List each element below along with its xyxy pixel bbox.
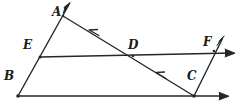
point-label-d: D: [128, 39, 138, 51]
vertex-dot-a: [62, 15, 65, 18]
arrowhead-ray-ba: [63, 3, 70, 13]
vertex-dot-e: [39, 56, 42, 59]
line-through-e: [40, 53, 232, 57]
arrowhead-ray-cf: [217, 36, 224, 46]
arrowhead-line-e: [225, 49, 235, 57]
vertex-dot-b: [16, 94, 20, 98]
diagram-canvas: A B C D E F: [0, 0, 242, 106]
arrowhead-line-b: [219, 92, 229, 100]
point-label-f: F: [203, 36, 212, 48]
point-label-e: E: [23, 39, 32, 51]
point-label-b: B: [4, 70, 14, 82]
geometry-figure: [0, 0, 242, 106]
vertex-dot-d: [132, 55, 135, 58]
point-label-c: C: [187, 70, 197, 82]
point-label-a: A: [52, 6, 61, 18]
vertex-dot-c: [192, 94, 196, 98]
tick-mark-dc-icon: [156, 72, 166, 79]
vertex-dot-f: [213, 50, 216, 53]
